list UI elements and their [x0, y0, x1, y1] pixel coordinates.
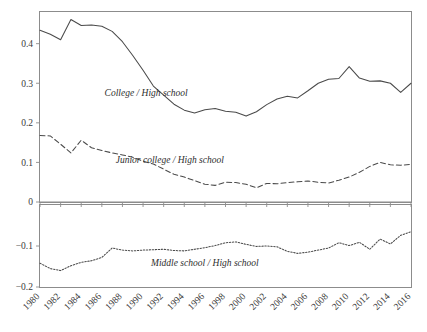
- chart-container: 00.10.20.30.4−0.2−0.1 198019821984198619…: [0, 0, 427, 332]
- y-tick-label-upper-1: 0.1: [21, 158, 33, 168]
- series-label-0: College / High school: [105, 88, 188, 98]
- series-label-1: Junior college / High school: [116, 155, 225, 165]
- y-tick-label-lower-1: −0.1: [16, 241, 33, 251]
- y-tick-label-upper-3: 0.3: [21, 79, 33, 89]
- chart-background: [0, 0, 427, 332]
- y-tick-label-upper-4: 0.4: [21, 39, 33, 49]
- y-tick-label-lower-0: −0.2: [16, 282, 33, 292]
- y-tick-label-upper-0: 0: [28, 197, 33, 207]
- series-label-2: Middle school / High school: [150, 258, 259, 268]
- y-tick-label-upper-2: 0.2: [21, 118, 33, 128]
- education-premium-line-chart: 00.10.20.30.4−0.2−0.1 198019821984198619…: [0, 0, 427, 332]
